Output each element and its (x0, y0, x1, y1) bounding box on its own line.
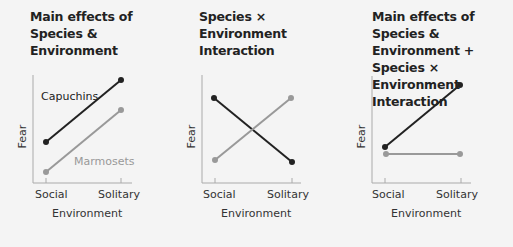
marmosets-label: Marmosets (74, 155, 135, 168)
capuchins-point (211, 95, 217, 101)
x-tick-label: Solitary (436, 188, 478, 201)
x-axis-label: Environment (391, 207, 461, 220)
y-axis-label: Fear (16, 125, 29, 149)
capuchins-point (118, 77, 124, 83)
capuchins-point (382, 144, 388, 150)
capuchins-line (385, 85, 460, 147)
marmosets-point (43, 169, 49, 175)
x-axis-label: Environment (221, 207, 291, 220)
marmosets-point (118, 107, 124, 113)
x-tick-label: Solitary (267, 188, 309, 201)
x-tick-label: Solitary (98, 188, 140, 201)
panel-interaction: Species × Environment Interaction Fear S… (171, 0, 342, 247)
panel-main-effects-and-interaction: Main effects of Species & Environment + … (342, 0, 513, 247)
capuchins-point (289, 159, 295, 165)
y-axis-label: Fear (185, 125, 198, 149)
x-axis-label: Environment (52, 207, 122, 220)
capuchins-point (457, 82, 463, 88)
capuchins-point (43, 139, 49, 145)
marmosets-point (212, 157, 218, 163)
capuchins-label: Capuchins (41, 90, 98, 103)
x-tick-label: Social (372, 188, 405, 201)
panel-main-effects: Main effects of Species & Environment Ca… (0, 0, 171, 247)
x-tick-label: Social (35, 188, 68, 201)
marmosets-point (457, 151, 463, 157)
marmosets-point (383, 151, 389, 157)
marmosets-point (288, 95, 294, 101)
x-tick-label: Social (203, 188, 236, 201)
y-axis-label: Fear (355, 125, 368, 149)
